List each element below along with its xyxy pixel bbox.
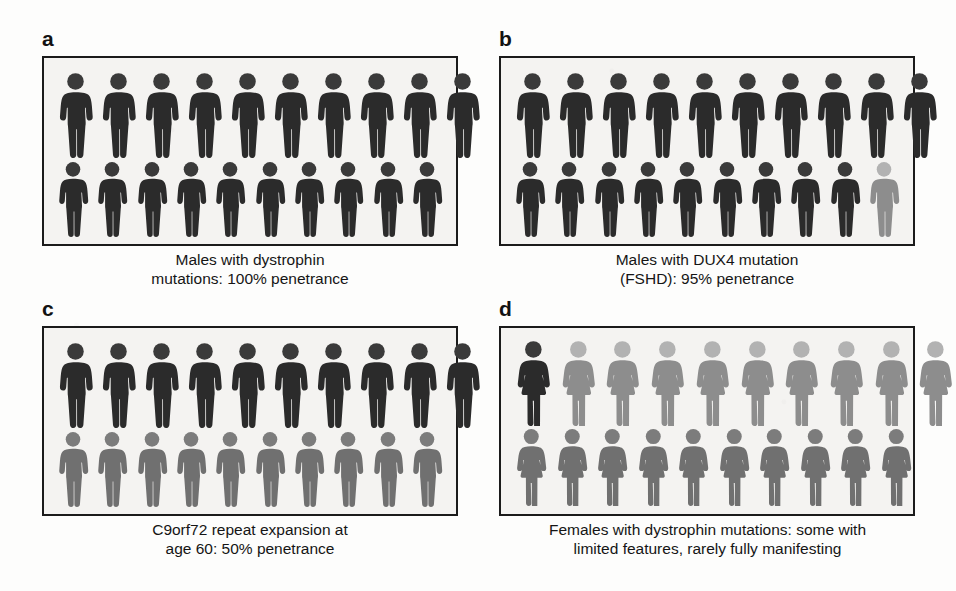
male-figure-icon (312, 342, 355, 428)
pictogram-cell (133, 161, 171, 237)
pictogram-cell (597, 72, 640, 158)
pictogram-cell (735, 340, 780, 426)
male-figure-icon (97, 342, 140, 428)
pictogram-cell (786, 161, 824, 237)
male-figure-icon (133, 161, 171, 237)
pictogram-cell (600, 340, 645, 426)
pictogram-cell (251, 431, 289, 507)
male-figure-icon (408, 161, 446, 237)
female-figure-icon (556, 340, 601, 426)
male-figure-icon (93, 431, 131, 507)
male-figure-icon (226, 342, 269, 428)
pictogram-cell (511, 161, 549, 237)
male-figure-icon (290, 161, 328, 237)
male-figure-icon (855, 72, 898, 158)
pictogram-cell (855, 72, 898, 158)
pictogram-cell (172, 161, 210, 237)
male-figure-icon (54, 342, 97, 428)
panel-b: b (497, 28, 917, 250)
male-figure-icon (355, 72, 398, 158)
pictogram-cell (290, 161, 328, 237)
pictogram-cell (590, 161, 628, 237)
male-figure-icon (369, 431, 407, 507)
male-figure-icon (786, 161, 824, 237)
pictogram-cell (329, 161, 367, 237)
pictogram-cell (290, 431, 328, 507)
pictogram-cell (441, 342, 484, 428)
panel-d-caption-line-2: limited features, rarely fully manifesti… (480, 539, 935, 558)
pictogram-cell (754, 428, 795, 506)
pictogram-cell (97, 72, 140, 158)
female-figure-icon (795, 428, 836, 506)
pictogram-cell (629, 161, 667, 237)
male-figure-icon (683, 72, 726, 158)
female-figure-icon (511, 340, 556, 426)
pictogram-cell (133, 431, 171, 507)
panel-c-caption-line-1: C9orf72 repeat expansion at (40, 520, 460, 539)
panel-d-box (499, 326, 915, 516)
male-figure-icon (312, 72, 355, 158)
female-figure-icon (633, 428, 674, 506)
pictogram-cell (312, 342, 355, 428)
panel-a-caption-line-1: Males with dystrophin (40, 250, 460, 269)
pictogram-cell (93, 161, 131, 237)
pictogram-cell (812, 72, 855, 158)
male-figure-icon (865, 161, 903, 237)
panel-a-row-2 (44, 161, 456, 237)
pictogram-cell (355, 342, 398, 428)
pictogram-cell (97, 342, 140, 428)
female-figure-icon (869, 340, 914, 426)
male-figure-icon (290, 431, 328, 507)
pictogram-cell (668, 161, 706, 237)
female-figure-icon (824, 340, 869, 426)
pictogram-cell (913, 340, 956, 426)
female-figure-icon (876, 428, 917, 506)
male-figure-icon (211, 431, 249, 507)
pictogram-cell (795, 428, 836, 506)
panel-d-letter: d (499, 298, 512, 319)
pictogram-cell (554, 72, 597, 158)
female-figure-icon (835, 428, 876, 506)
pictogram-cell (511, 340, 556, 426)
pictogram-cell (826, 161, 864, 237)
pictogram-cell (556, 340, 601, 426)
male-figure-icon (226, 72, 269, 158)
pictogram-cell (269, 72, 312, 158)
pictogram-cell (408, 161, 446, 237)
pictogram-cell (54, 161, 92, 237)
male-figure-icon (398, 342, 441, 428)
male-figure-icon (441, 342, 484, 428)
panel-a-caption: Males with dystrophin mutations: 100% pe… (40, 250, 460, 289)
pictogram-cell (251, 161, 289, 237)
male-figure-icon (172, 431, 210, 507)
panel-b-row-2 (501, 161, 913, 237)
male-figure-icon (590, 161, 628, 237)
pictogram-cell (633, 428, 674, 506)
male-figure-icon (54, 72, 97, 158)
panel-d-row-1 (501, 340, 913, 426)
panel-a-box (42, 56, 458, 246)
pictogram-cell (876, 428, 917, 506)
pictogram-cell (54, 342, 97, 428)
male-figure-icon (369, 161, 407, 237)
male-figure-icon (269, 342, 312, 428)
pictogram-cell (172, 431, 210, 507)
panel-c-row-1 (44, 342, 456, 428)
pictogram-cell (747, 161, 785, 237)
male-figure-icon (747, 161, 785, 237)
male-figure-icon (93, 161, 131, 237)
male-figure-icon (408, 431, 446, 507)
pictogram-cell (865, 161, 903, 237)
pictogram-cell (640, 72, 683, 158)
female-figure-icon (779, 340, 824, 426)
male-figure-icon (172, 161, 210, 237)
pictogram-cell (550, 161, 588, 237)
male-figure-icon (826, 161, 864, 237)
panel-d-caption-line-1: Females with dystrophin mutations: some … (480, 520, 935, 539)
panel-b-box (499, 56, 915, 246)
pictogram-cell (54, 72, 97, 158)
male-figure-icon (251, 161, 289, 237)
male-figure-icon (550, 161, 588, 237)
pictogram-cell (824, 340, 869, 426)
male-figure-icon (211, 161, 249, 237)
